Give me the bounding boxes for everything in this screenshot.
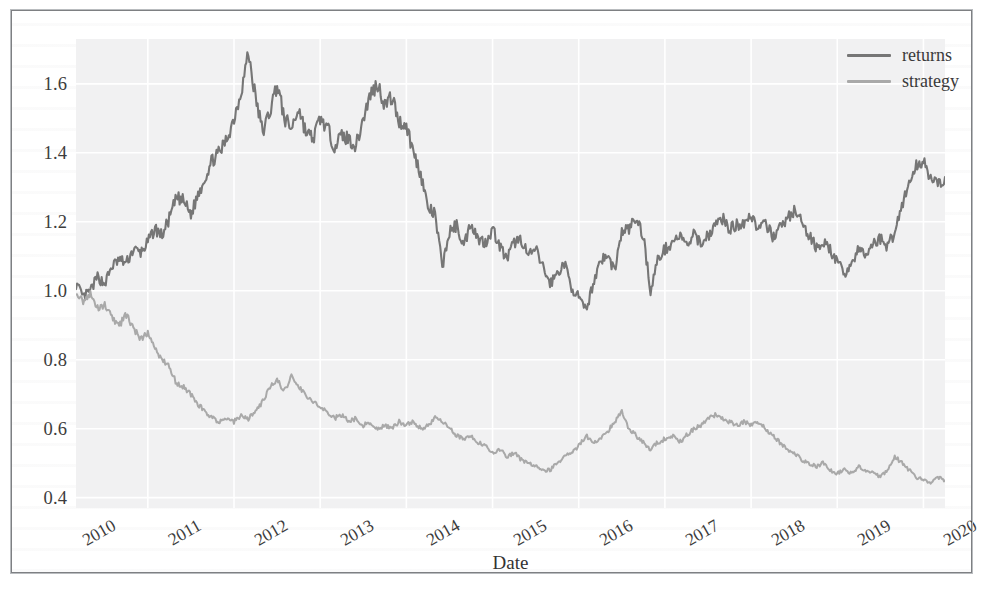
x-tick-label: 2014 xyxy=(423,515,464,551)
x-tick-label-text: 2016 xyxy=(595,515,636,551)
x-tick-label-text: 2013 xyxy=(337,515,378,551)
x-tick-label: 2013 xyxy=(337,515,378,551)
page-frame-border: 0.40.60.81.01.21.41.6 201020112012201320… xyxy=(10,9,973,574)
series-lines xyxy=(76,39,945,508)
x-tick-label: 2011 xyxy=(164,515,204,550)
x-tick-label: 2018 xyxy=(768,515,809,551)
x-tick-label: 2020 xyxy=(940,515,981,551)
plot-area: 0.40.60.81.01.21.41.6 201020112012201320… xyxy=(76,39,945,508)
legend-line-swatch-icon xyxy=(847,54,891,57)
legend-item-returns[interactable]: returns xyxy=(847,45,959,65)
x-tick-label-text: 2020 xyxy=(940,515,981,551)
y-tick-label: 0.8 xyxy=(44,349,67,370)
y-tick-label: 1.6 xyxy=(44,73,67,94)
legend-label: returns xyxy=(902,45,952,66)
legend-line-swatch-icon xyxy=(847,80,891,83)
x-tick-label: 2012 xyxy=(251,515,292,551)
x-tick-label-text: 2019 xyxy=(854,515,895,551)
x-tick-label: 2017 xyxy=(682,515,723,551)
chart-legend: returnsstrategy xyxy=(841,41,965,95)
x-tick-label: 2016 xyxy=(595,515,636,551)
x-tick-label-text: 2010 xyxy=(78,515,119,551)
x-tick-label: 2015 xyxy=(509,515,550,551)
scanned-page: 0.40.60.81.01.21.41.6 201020112012201320… xyxy=(0,0,985,589)
legend-label: strategy xyxy=(902,71,959,92)
x-tick-label-text: 2018 xyxy=(768,515,809,551)
x-tick-label: 2019 xyxy=(854,515,895,551)
y-tick-label: 0.4 xyxy=(44,487,67,508)
series-line-strategy xyxy=(76,291,945,484)
y-tick-label: 1.0 xyxy=(44,280,67,301)
y-tick-label: 1.4 xyxy=(44,142,67,163)
x-tick-label-text: 2017 xyxy=(682,515,723,551)
y-tick-label: 1.2 xyxy=(44,211,67,232)
x-tick-label: 2010 xyxy=(78,515,119,551)
legend-item-strategy[interactable]: strategy xyxy=(847,71,959,91)
x-tick-label-text: 2015 xyxy=(509,515,550,551)
x-axis-label: Date xyxy=(76,552,945,574)
y-tick-label: 0.6 xyxy=(44,418,67,439)
chart-figure: 0.40.60.81.01.21.41.6 201020112012201320… xyxy=(24,21,983,583)
series-line-returns xyxy=(76,52,945,309)
x-tick-label-text: 2012 xyxy=(251,515,292,551)
x-tick-label-text: 2014 xyxy=(423,515,464,551)
x-tick-label-text: 2011 xyxy=(164,515,204,550)
